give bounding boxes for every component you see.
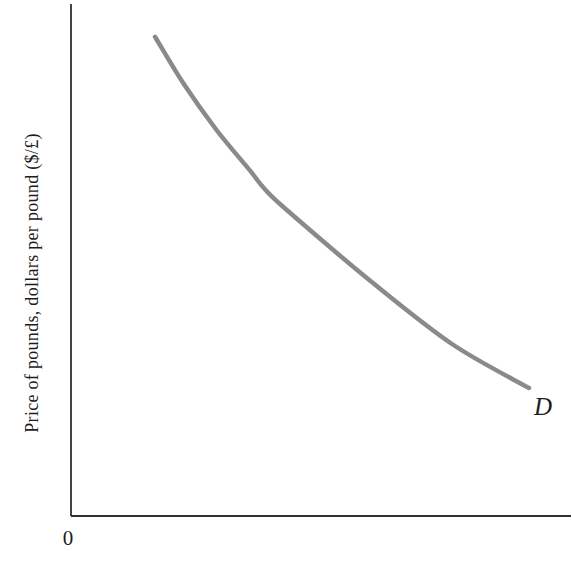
y-axis-label: Price of pounds, dollars per pound ($/£) [22, 133, 43, 432]
demand-curve-label: D [534, 393, 552, 421]
demand-curve [155, 37, 529, 388]
plot-area [0, 0, 572, 562]
demand-curve-figure: Price of pounds, dollars per pound ($/£)… [0, 0, 572, 562]
origin-label: 0 [63, 526, 74, 551]
